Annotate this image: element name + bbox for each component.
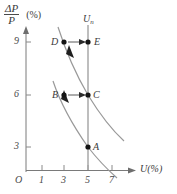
x-tick-label-7: 7 xyxy=(109,175,114,185)
data-point-d xyxy=(61,39,66,44)
point-label-c: C xyxy=(93,90,100,100)
data-point-e xyxy=(85,39,90,44)
y-axis-arrowhead xyxy=(23,26,29,34)
x-tick-label-1: 1 xyxy=(39,175,44,185)
data-point-a xyxy=(85,144,90,149)
phillips-curve-upper xyxy=(58,27,124,141)
y-tick-label-6: 6 xyxy=(14,89,19,99)
data-point-c xyxy=(85,92,90,97)
y-axis-label: ΔP P (%) xyxy=(4,3,68,26)
x-tick-label-5: 5 xyxy=(85,175,90,185)
point-label-d: D xyxy=(51,37,58,47)
natural-rate-label: Un xyxy=(83,14,94,26)
y-axis-fraction: ΔP P xyxy=(4,3,19,26)
x-tick-label-3: 3 xyxy=(61,175,66,185)
y-tick-label-3: 3 xyxy=(14,141,19,151)
y-axis-unit: (%) xyxy=(23,10,41,20)
natural-rate-label-subscript: n xyxy=(90,18,94,26)
point-label-b: B xyxy=(52,90,58,100)
y-tick-label-9: 9 xyxy=(14,36,19,46)
x-axis-label: U(%) xyxy=(140,164,162,174)
origin-label: O xyxy=(15,175,22,185)
arrow-d-to-e-head xyxy=(79,39,86,45)
arrow-b-to-c-head xyxy=(79,92,86,98)
phillips-curve-figure: ΔP P (%) Un U(%) O 9 6 3 1 3 5 7 A B C D… xyxy=(0,0,177,194)
arrow-c-to-d-head xyxy=(66,45,74,58)
point-label-a: A xyxy=(93,142,99,152)
x-axis-arrowhead xyxy=(128,168,136,174)
y-axis-numerator: ΔP xyxy=(4,3,19,14)
data-point-b xyxy=(61,92,66,97)
point-label-e: E xyxy=(94,37,100,47)
y-axis-denominator: P xyxy=(4,14,19,26)
